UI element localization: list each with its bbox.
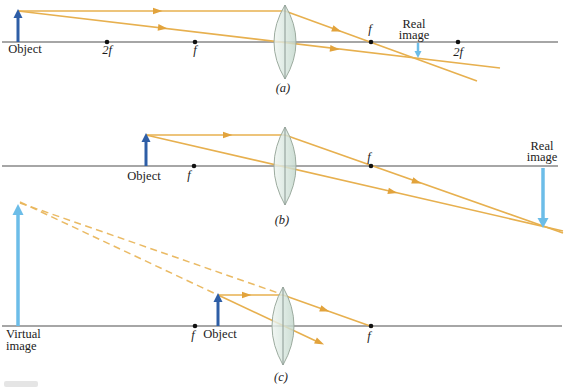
virtual-image-label-line2: image [6,339,37,353]
virtual-image-arrow [13,204,24,326]
panel-caption: (c) [274,370,288,384]
panel-c: Virtual image f Object f (c) [2,202,562,387]
virtual-ray-extensions-dashed [20,202,281,295]
label-f-left: f [193,43,198,57]
ray-parallel [218,295,373,327]
object-label: Object [127,169,161,183]
panel-caption: (b) [275,213,290,227]
label-f-right: f [367,150,372,164]
object-arrow [14,9,23,42]
label-2f-left: 2f [102,43,113,57]
figure-lens-ray-diagrams: Object 2f f f 2f Real image (a) [0,0,567,391]
object-arrow [142,133,151,166]
real-image-arrow [538,168,549,228]
object-label: Object [203,327,237,341]
focal-point-f-right [369,324,374,329]
label-f-right: f [367,329,372,343]
label-f-left: f [187,168,192,182]
label-f-right: f [368,22,373,36]
ray-direction-arrowheads [223,132,422,197]
real-image-label-line2: image [399,28,430,42]
label-2f-right: 2f [453,45,464,59]
real-image-label-line2: image [527,150,558,164]
label-f-left: f [191,328,196,342]
panel-a: Object 2f f f 2f Real image (a) [2,5,558,95]
object-arrow [214,293,223,326]
object-label: Object [8,42,42,56]
focal-point-f-right [369,40,374,45]
ray-central [146,135,563,231]
focal-point-2f-right [456,40,461,45]
panel-b: Object f f Real image (b) [2,127,563,233]
panel-caption: (a) [276,81,291,95]
print-artifact [4,381,38,387]
focal-point-f-right [369,164,374,169]
real-image-arrow [415,43,422,58]
focal-point-f-left [192,164,197,169]
